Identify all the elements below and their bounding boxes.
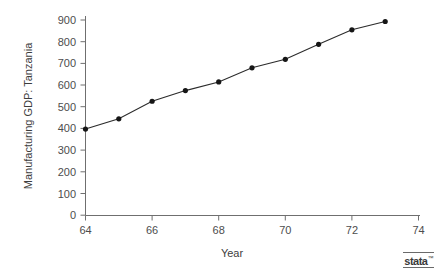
x-axis-title: Year: [221, 247, 244, 259]
data-point: [216, 79, 221, 84]
x-axis-tick-labels: 64 66 68 70 72 74: [79, 224, 424, 236]
data-point: [150, 99, 155, 104]
x-axis-ticks: [86, 216, 419, 221]
y-tick-label-400: 400: [58, 122, 76, 134]
stata-logo-text: stata: [404, 255, 427, 267]
x-tick-label-66: 66: [146, 224, 158, 236]
data-point: [316, 42, 321, 47]
x-tick-label-64: 64: [79, 224, 91, 236]
y-tick-label-100: 100: [58, 188, 76, 200]
y-tick-label-900: 900: [58, 14, 76, 26]
x-tick-label-68: 68: [213, 224, 225, 236]
y-tick-label-200: 200: [58, 166, 76, 178]
data-point: [383, 19, 388, 24]
data-point: [283, 57, 288, 62]
x-tick-label-74: 74: [412, 224, 424, 236]
y-axis-title: Manufacturing GDP: Tanzania: [22, 42, 34, 189]
y-tick-label-700: 700: [58, 57, 76, 69]
data-point: [183, 88, 188, 93]
trademark-mark: ™: [428, 255, 434, 261]
chart-container: 900 800 700 600 500 400 300 200 100 0 64…: [0, 0, 440, 276]
y-tick-label-300: 300: [58, 144, 76, 156]
data-point: [83, 126, 88, 131]
y-axis-tick-labels: 900 800 700 600 500 400 300 200 100 0: [58, 14, 76, 221]
y-tick-label-800: 800: [58, 36, 76, 48]
line-chart: 900 800 700 600 500 400 300 200 100 0 64…: [0, 0, 440, 276]
y-tick-label-500: 500: [58, 101, 76, 113]
x-tick-label-72: 72: [346, 224, 358, 236]
data-point: [249, 65, 254, 70]
series-line-manufacturing-gdp: [86, 22, 386, 130]
x-tick-label-70: 70: [279, 224, 291, 236]
data-point: [349, 27, 354, 32]
stata-logo: stata™: [403, 252, 434, 268]
y-axis-ticks: [81, 20, 86, 215]
y-tick-label-0: 0: [70, 209, 76, 221]
y-tick-label-600: 600: [58, 79, 76, 91]
data-point: [116, 116, 121, 121]
